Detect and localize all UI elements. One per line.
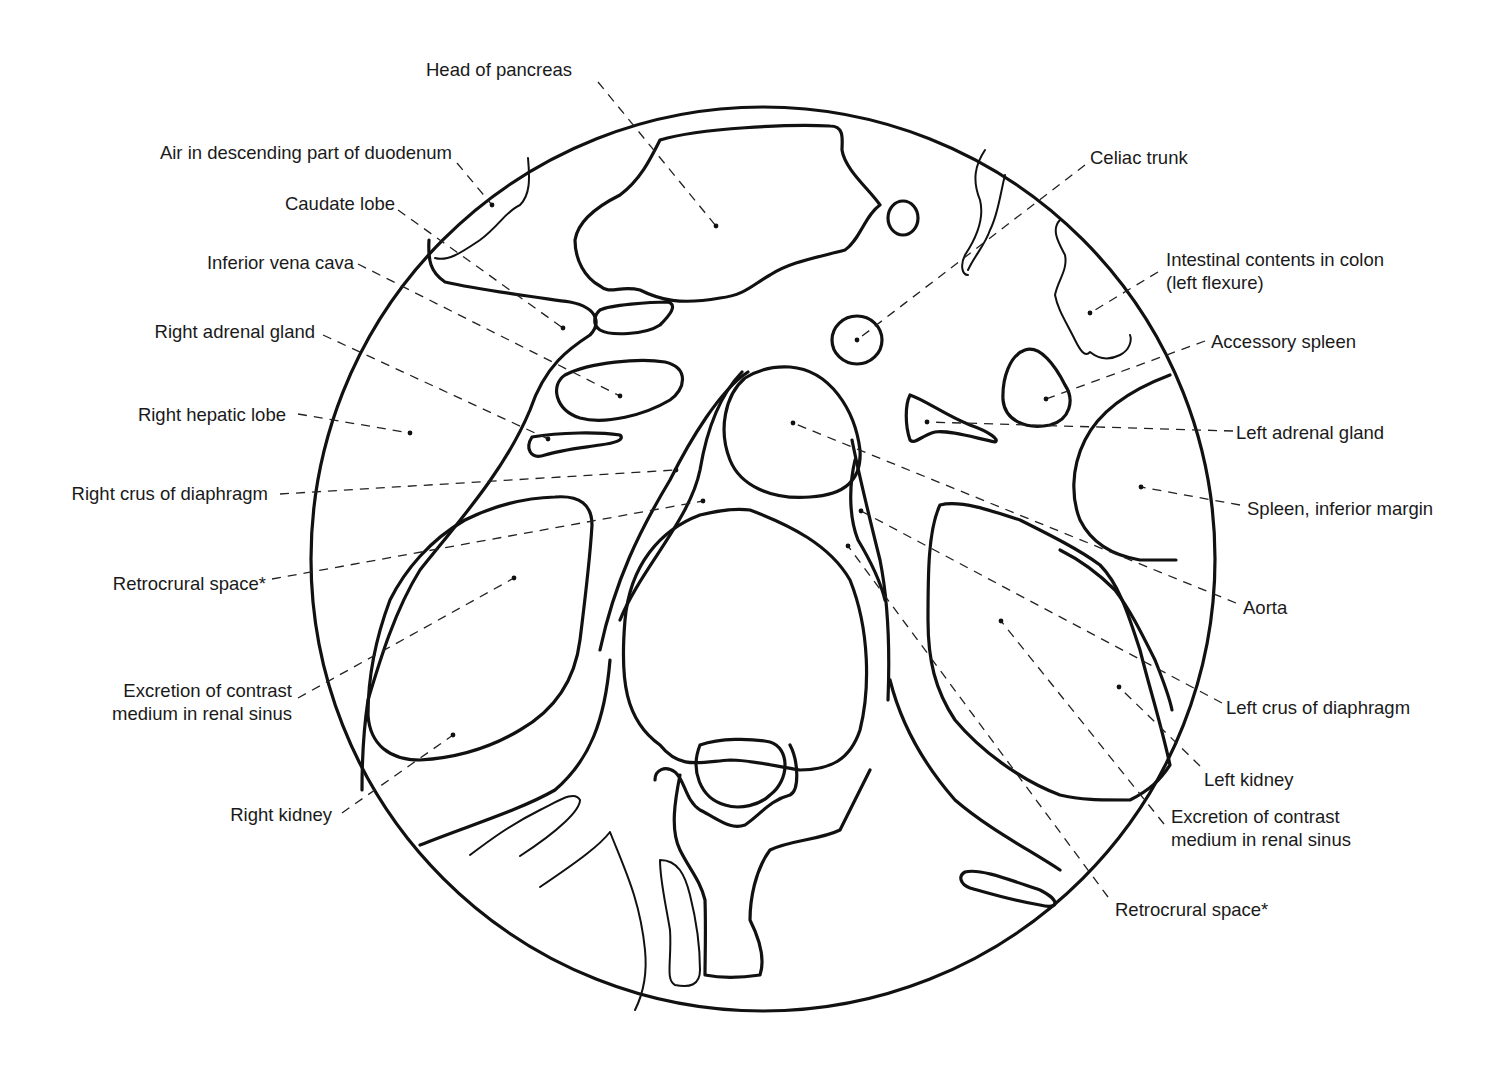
duodenum-outline [435,158,529,259]
pancreas-outline [575,126,880,302]
label-right-adrenal-gland: Right adrenal gland [155,320,315,343]
label-left-kidney: Left kidney [1204,768,1293,791]
posterior-elements [655,745,870,977]
aorta-outline [724,367,860,498]
spleen-outline [1074,375,1176,560]
pointer-dots [408,203,1144,738]
spleen-lower-edge [1060,550,1172,710]
leader-lines [272,82,1240,897]
label-excretion-left-line2: medium in renal sinus [1171,828,1351,851]
label-right-crus-of-diaphragm: Right crus of diaphragm [72,482,268,505]
label-inferior-vena-cava: Inferior vena cava [207,251,354,274]
left-posterior-fat [961,871,1055,906]
right-kidney-outline [368,497,592,760]
label-celiac-trunk: Celiac trunk [1090,146,1188,169]
anatomy-diagram: Head of pancreas Air in descending part … [0,0,1492,1068]
label-excretion-right-line2: medium in renal sinus [112,702,292,725]
label-accessory-spleen: Accessory spleen [1211,330,1356,353]
field-of-view-circle [311,107,1215,1011]
spinous-process-left [660,860,700,986]
label-caudate-lobe: Caudate lobe [285,192,395,215]
label-retrocrural-space-left: Retrocrural space* [113,572,266,595]
label-intestinal-contents-line2: (left flexure) [1166,271,1264,294]
label-intestinal-contents-line1: Intestinal contents in colon [1166,248,1384,271]
right-posterior-muscle [420,660,610,845]
label-excretion-left-line1: Excretion of contrast [1171,805,1340,828]
label-air-duodenum: Air in descending part of duodenum [160,141,452,164]
left-crus-inner [851,460,885,600]
left-adrenal-outline [906,395,996,442]
right-crus-inner [620,372,742,620]
spinal-canal-outline [696,739,785,807]
pancreas-vessel [888,201,918,235]
colon-wall-inner [968,175,1005,270]
accessory-spleen-outline [1003,349,1070,426]
left-posterior-muscle [890,680,1060,870]
label-excretion-right-line1: Excretion of contrast [123,679,292,702]
label-left-adrenal-gland: Left adrenal gland [1236,421,1384,444]
left-kidney-outline [928,504,1170,800]
right-posterior-line [540,832,646,1010]
colon-outline [1055,220,1131,358]
label-left-crus-of-diaphragm: Left crus of diaphragm [1226,696,1410,719]
label-spleen-inferior-margin: Spleen, inferior margin [1247,497,1433,520]
left-crus-outline [852,440,889,700]
label-right-hepatic-lobe: Right hepatic lobe [138,403,286,426]
inferior-vena-cava-outline [557,361,683,421]
small-vessel [595,302,673,334]
label-aorta: Aorta [1243,596,1287,619]
label-retrocrural-space-right: Retrocrural space* [1115,898,1268,921]
label-head-of-pancreas: Head of pancreas [426,58,572,81]
label-right-kidney: Right kidney [230,803,332,826]
